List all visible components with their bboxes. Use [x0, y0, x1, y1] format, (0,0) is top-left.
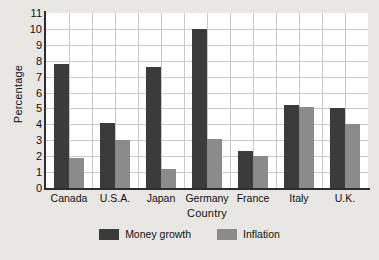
x-axis-tick-label: Italy — [289, 192, 308, 204]
y-axis-tick-label: 5 — [36, 103, 42, 114]
bar — [238, 151, 253, 188]
vertical-gridline — [322, 13, 323, 188]
bar — [69, 158, 84, 188]
bar — [54, 64, 69, 188]
bar — [207, 139, 222, 188]
legend-label: Inflation — [243, 228, 280, 240]
y-axis-tick-label: 4 — [36, 119, 42, 130]
y-axis-tick-label: 0 — [36, 183, 42, 194]
bar-chart-figure: Percentage 01234567891011 CanadaU.S.A.Ja… — [0, 0, 379, 260]
y-axis-tick-label: 10 — [30, 23, 42, 34]
bar — [115, 140, 130, 188]
vertical-gridline — [161, 13, 162, 188]
y-axis-tick-label: 8 — [36, 55, 42, 66]
x-axis-tick-label: U.S.A. — [100, 192, 130, 204]
x-axis-tick-labels: CanadaU.S.A.JapanGermanyFranceItalyU.K. — [46, 192, 368, 208]
chart-legend: Money growthInflation — [0, 228, 379, 240]
y-axis-tick-label: 2 — [36, 151, 42, 162]
legend-entry: Inflation — [217, 228, 280, 240]
y-axis-tick-label: 11 — [31, 8, 42, 19]
x-axis-tick-label: France — [237, 192, 270, 204]
bar — [345, 124, 360, 188]
x-axis-line — [44, 188, 370, 190]
vertical-gridline — [92, 13, 93, 188]
y-axis-title: Percentage — [12, 49, 24, 139]
bar — [330, 108, 345, 188]
y-axis-line — [44, 11, 46, 190]
vertical-gridline — [184, 13, 185, 188]
plot-area — [46, 13, 368, 188]
x-axis-tick-label: U.K. — [335, 192, 355, 204]
y-axis-tick-label: 6 — [36, 87, 42, 98]
bar — [192, 29, 207, 188]
vertical-gridline — [230, 13, 231, 188]
legend-label: Money growth — [125, 228, 191, 240]
y-axis-tick-label: 3 — [36, 135, 42, 146]
x-axis-title: Country — [46, 207, 368, 219]
y-axis-tick-label: 1 — [36, 167, 42, 178]
y-axis-tick-label: 9 — [36, 39, 42, 50]
bar — [299, 107, 314, 188]
legend-entry: Money growth — [99, 228, 191, 240]
vertical-gridline — [138, 13, 139, 188]
y-axis-tick-label: 7 — [36, 71, 42, 82]
x-axis-tick-label: Japan — [147, 192, 176, 204]
bar — [253, 156, 268, 188]
bar — [100, 123, 115, 188]
bar — [161, 169, 176, 188]
bar — [284, 105, 299, 188]
x-axis-tick-label: Germany — [185, 192, 228, 204]
y-axis-tick-labels: 01234567891011 — [24, 13, 42, 188]
bar — [146, 67, 161, 188]
legend-swatch-icon — [217, 229, 237, 240]
x-axis-tick-label: Canada — [51, 192, 88, 204]
legend-swatch-icon — [99, 229, 119, 240]
vertical-gridline — [276, 13, 277, 188]
